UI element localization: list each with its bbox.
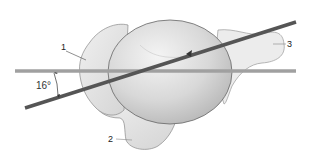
anatomical-figure: [0, 0, 309, 156]
angle-label: 16°: [36, 81, 51, 91]
angle-arc: [54, 73, 58, 95]
label-2: 2: [108, 135, 113, 144]
label-1: 1: [61, 43, 66, 52]
label-3: 3: [287, 40, 292, 49]
